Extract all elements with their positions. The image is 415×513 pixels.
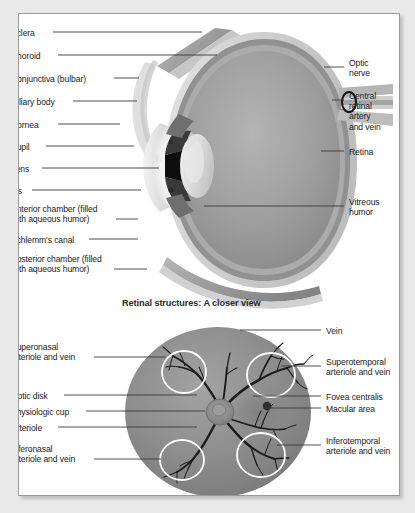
fundus-artwork: [125, 327, 313, 496]
fundus-label-left-4: Inferonasal arteriole and vein: [18, 444, 75, 464]
eye-label-left-8: Anterior chamber (filled with aqueous hu…: [18, 204, 97, 224]
fundus-label-right-3: Macular area: [326, 404, 375, 414]
schlemm-canal-marker-upper: [169, 140, 173, 144]
eye-label-left-7: Iris: [18, 186, 22, 196]
physiologic-cup: [213, 404, 226, 416]
fundus-label-left-2: Physiologic cup: [18, 407, 69, 417]
schlemm-canal-marker: [168, 187, 173, 192]
fundus-label-left-1: Optic disk: [18, 391, 48, 401]
fundus-label-right-4: Inferotemporal arteriole and vein: [326, 436, 390, 456]
fundus-label-right-0: Vein: [326, 326, 342, 336]
eye-label-left-2: Conjunctiva (bulbar): [18, 74, 86, 84]
fundus-label-right-2: Fovea centralis: [326, 392, 383, 402]
eye-label-left-3: Ciliary body: [18, 97, 55, 107]
eye-label-left-10: Posterior chamber (filled with aqueous h…: [18, 254, 102, 274]
fundus-label-left-3: Arteriole: [18, 423, 42, 433]
optic-disk: [206, 399, 234, 425]
eye-label-left-6: Lens: [18, 164, 29, 174]
figure-panel: Retinal structures: A closer view Sclera…: [18, 13, 400, 496]
eye-label-right-2: Retina: [349, 147, 373, 157]
eye-label-left-9: Schlemm's canal: [18, 235, 74, 245]
fovea-centralis-dot: [263, 402, 271, 410]
eye-label-left-0: Sclera: [18, 28, 35, 38]
page-background: Retinal structures: A closer view Sclera…: [0, 0, 415, 513]
eye-label-left-4: Cornea: [18, 120, 39, 130]
fundus-label-left-0: Superonasal arteriole and vein: [18, 342, 75, 362]
eye-label-right-3: Vitreous humor: [349, 197, 380, 217]
eye-label-right-1: Central retinal artery and vein: [349, 91, 381, 132]
eye-label-left-5: Pupil: [18, 142, 30, 152]
section-heading: Retinal structures: A closer view: [122, 298, 260, 308]
fundus-label-right-1: Superotemporal arteriole and vein: [326, 357, 390, 377]
eye-label-right-0: Optic nerve: [349, 58, 370, 78]
eye-label-left-1: Choroid: [18, 51, 40, 61]
lens: [180, 134, 214, 198]
